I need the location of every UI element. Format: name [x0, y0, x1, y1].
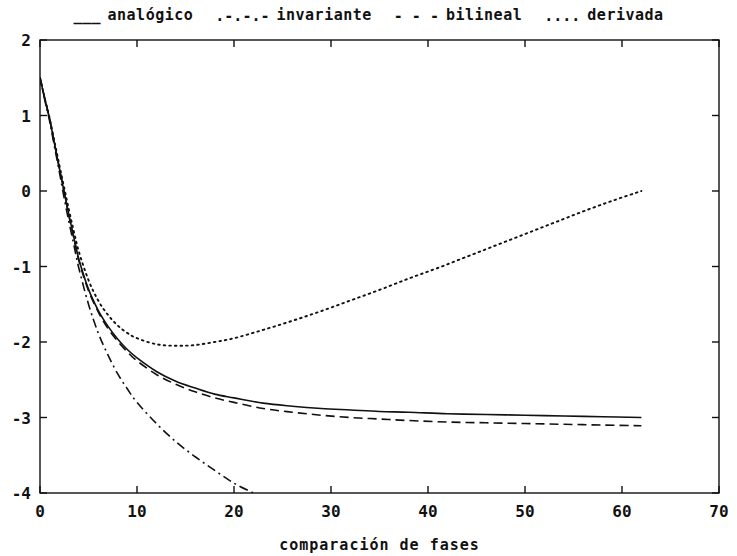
- axis-titles: comparación de fases: [279, 536, 480, 554]
- plot-area: 010203040506070210-1-2-3-4 comparación d…: [0, 0, 737, 556]
- y-tick-label: 1: [21, 107, 31, 126]
- y-tick-label: -3: [12, 409, 31, 428]
- y-tick-label: -1: [12, 258, 31, 277]
- chart-figure: ___ analógico .-.-.- invariante - - - bi…: [0, 0, 737, 556]
- x-axis-title: comparación de fases: [279, 536, 480, 554]
- x-tick-label: 0: [35, 502, 45, 521]
- series-line-bilineal: [40, 78, 641, 426]
- y-tick-label: 0: [21, 182, 31, 201]
- x-tick-label: 60: [612, 502, 631, 521]
- series-line-derivada: [40, 78, 641, 346]
- y-tick-label: -4: [12, 484, 31, 503]
- x-tick-label: 10: [127, 502, 146, 521]
- x-tick-label: 70: [709, 502, 728, 521]
- axis-tick-labels: 010203040506070210-1-2-3-4: [12, 31, 729, 521]
- x-tick-label: 40: [418, 502, 437, 521]
- y-tick-label: -2: [12, 333, 31, 352]
- y-tick-label: 2: [21, 31, 31, 50]
- series-line-invariante: [40, 78, 253, 493]
- x-tick-label: 50: [515, 502, 534, 521]
- axes-frame: [40, 40, 719, 493]
- series-line-analogico: [40, 78, 641, 418]
- data-series-group: [40, 78, 641, 493]
- x-tick-label: 30: [321, 502, 340, 521]
- x-tick-label: 20: [224, 502, 243, 521]
- axis-ticks: [40, 40, 719, 493]
